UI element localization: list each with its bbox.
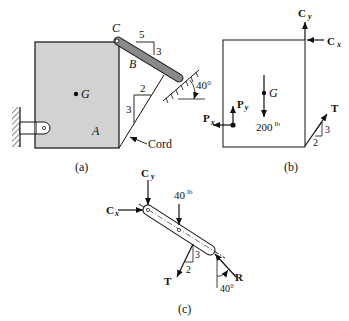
label-A: A: [91, 124, 100, 138]
panel-b: Cy Cx G 200lb Py Px T 3 2 (b): [203, 7, 341, 174]
caption-c: (c): [178, 302, 191, 316]
panel-c: Cy Cx 40lb T 3 2 R 40° (c): [106, 167, 244, 316]
label-T: T: [164, 275, 172, 287]
caption-b: (b): [284, 160, 298, 174]
free-body-diagram: G A 2 3 Cord C B 5 3: [0, 0, 349, 321]
panel-a: G A 2 3 Cord C B 5 3: [12, 21, 211, 174]
label-Cx: Cx: [106, 204, 119, 218]
cord-slope-run: 2: [140, 82, 146, 94]
label-Px: Px: [203, 112, 215, 127]
label-T: T: [331, 102, 339, 114]
T-slope-run: 2: [313, 137, 318, 148]
T-slope-rise: 3: [325, 124, 330, 135]
label-G: G: [81, 87, 90, 101]
T-slope-run: 2: [186, 264, 191, 275]
bar-BC-fbd: [139, 204, 225, 258]
bar-slope-rise: 3: [156, 45, 162, 57]
label-G-fbd: G: [269, 86, 278, 100]
wall-support: [12, 107, 20, 147]
label-Cy: Cy: [298, 7, 312, 21]
T-slope-rise: 3: [195, 249, 200, 260]
cord-leader: [130, 137, 147, 144]
center-of-gravity-dot: [74, 92, 78, 96]
force-R-arrow: [215, 254, 236, 277]
weight-label: 40lb: [174, 188, 193, 201]
cord-label: Cord: [148, 137, 172, 151]
angle-40-label: 40°: [196, 79, 211, 91]
label-C: C: [112, 21, 121, 35]
weight-label: 200lb: [256, 120, 280, 133]
cord-slope-rise: 3: [126, 103, 132, 115]
angle-40-label: 40°: [220, 283, 234, 294]
label-R: R: [235, 271, 244, 283]
label-Cx: Cx: [327, 35, 341, 49]
label-B: B: [129, 57, 137, 71]
label-Py: Py: [237, 98, 249, 112]
caption-a: (a): [75, 160, 88, 174]
bar-BC: [115, 39, 179, 78]
center-of-gravity-dot: [262, 91, 266, 95]
bar-slope-run: 5: [139, 28, 145, 40]
label-Cy: Cy: [141, 167, 155, 181]
